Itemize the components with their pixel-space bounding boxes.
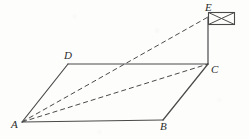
vertex-label-b: B	[160, 121, 167, 132]
segment-AB	[22, 120, 163, 122]
segment-DA	[22, 64, 68, 122]
vertex-label-a: A	[11, 119, 18, 130]
vertex-label-e: E	[205, 2, 212, 13]
vertex-label-c: C	[211, 64, 218, 75]
flag	[209, 13, 235, 25]
dashed-edges	[22, 17, 208, 122]
segment-AC	[22, 64, 208, 122]
vertex-label-d: D	[64, 50, 72, 61]
geometry-figure: A B C D E	[0, 0, 249, 139]
segment-AE	[22, 17, 208, 122]
segment-BC	[163, 64, 208, 120]
